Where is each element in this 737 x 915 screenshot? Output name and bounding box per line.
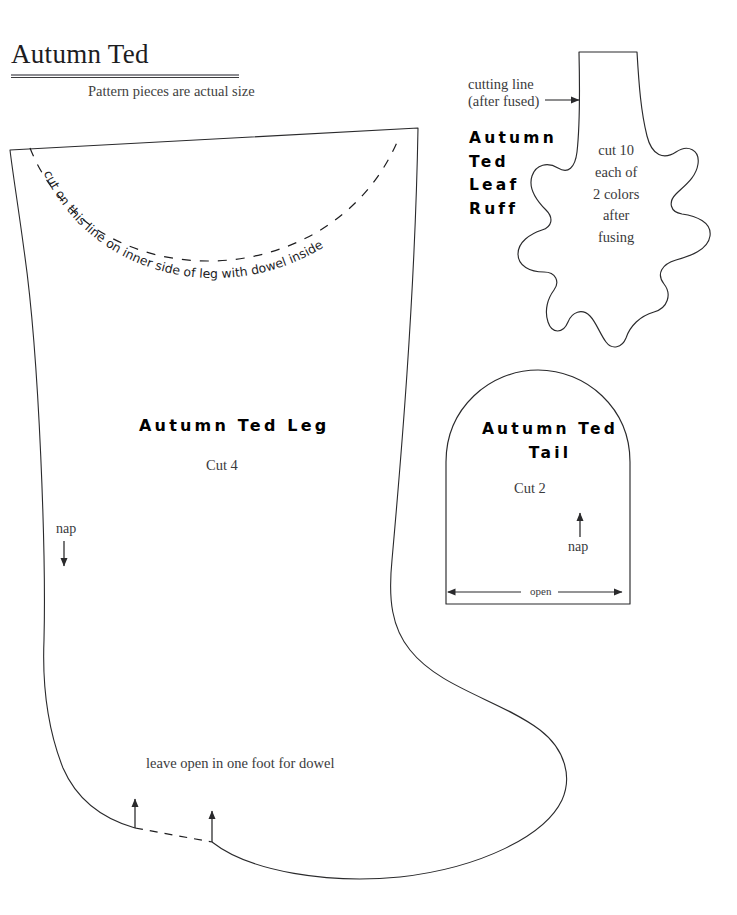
leg-piece-title: Autumn Ted Leg xyxy=(139,417,329,436)
pattern-sheet-page: cut on this line on inner side of leg wi… xyxy=(0,0,737,915)
tail-title-line-1: Autumn Ted xyxy=(482,420,618,438)
title-rule-thin xyxy=(11,77,239,78)
leaf-ruff-piece-title: Autumn Ted Leaf Ruff xyxy=(469,127,557,221)
title-rule-thick xyxy=(11,74,239,76)
page-title: Autumn Ted xyxy=(11,39,149,71)
tail-nap-label: nap xyxy=(568,539,588,556)
leaf-ruff-instruction: cut 10 each of 2 colors after fusing xyxy=(593,140,639,249)
tail-open-label: open xyxy=(530,585,551,598)
leg-nap-label: nap xyxy=(56,521,76,538)
tail-cut-count: Cut 2 xyxy=(514,480,546,497)
leg-foot-note: leave open in one foot for dowel xyxy=(146,755,334,772)
cutting-line-label: cutting line (after fused) xyxy=(468,76,539,110)
leg-cut-count: Cut 4 xyxy=(206,457,238,474)
tail-title-line-2: Tail xyxy=(529,444,571,462)
tail-piece-title: Autumn TedTail xyxy=(470,418,630,465)
page-subtitle: Pattern pieces are actual size xyxy=(88,83,255,100)
